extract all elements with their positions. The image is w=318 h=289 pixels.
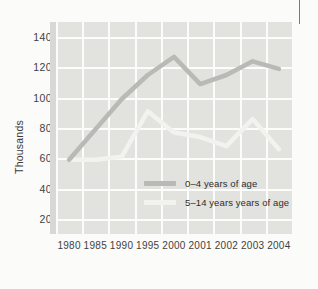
y-axis-tick: 20 — [24, 213, 52, 225]
x-axis-tick-labels: 198019851990199520002001200220032004 — [56, 240, 292, 256]
x-axis-tick: 1995 — [136, 240, 159, 251]
chart-page: Thousands 14012010080604020 198019851990… — [0, 0, 318, 289]
y-axis-tick: 100 — [24, 92, 52, 104]
legend-label: 0–4 years of age — [185, 178, 257, 189]
legend-item: 5–14 years years of age — [144, 193, 296, 212]
x-axis-tick: 1980 — [57, 240, 80, 251]
legend-swatch-icon — [144, 200, 176, 205]
legend-label: 5–14 years years of age — [185, 197, 289, 208]
legend-item: 0–4 years of age — [144, 174, 296, 193]
y-axis-tick: 120 — [24, 61, 52, 73]
y-axis-tick: 60 — [24, 152, 52, 164]
y-axis-tick: 40 — [24, 183, 52, 195]
x-axis-tick: 2003 — [241, 240, 264, 251]
x-axis-tick: 2000 — [162, 240, 185, 251]
line-chart-figure: Thousands 14012010080604020 198019851990… — [6, 8, 300, 274]
x-axis-tick: 2002 — [215, 240, 238, 251]
x-axis-tick: 2004 — [267, 240, 290, 251]
x-axis-tick: 1990 — [110, 240, 133, 251]
legend-swatch-icon — [144, 181, 176, 186]
x-axis-tick: 2001 — [188, 240, 211, 251]
series-line — [69, 111, 279, 159]
series-line — [69, 57, 279, 160]
y-axis-tick: 140 — [24, 31, 52, 43]
y-axis-tick-labels: 14012010080604020 — [22, 8, 52, 274]
x-axis-tick: 1985 — [84, 240, 107, 251]
y-axis-tick: 80 — [24, 122, 52, 134]
chart-legend: 0–4 years of age5–14 years years of age — [144, 174, 296, 212]
